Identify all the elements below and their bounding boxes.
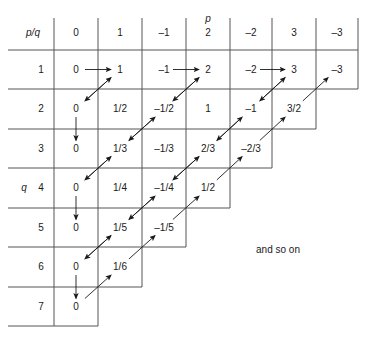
grid-cell-q2-c3: 1 xyxy=(205,104,211,114)
grid-and-arrows-canvas xyxy=(0,0,368,352)
grid-cell-q4-c3: 1/2 xyxy=(201,183,215,193)
column-header-4: –2 xyxy=(245,28,256,38)
grid-cell-q1-c4: –2 xyxy=(245,65,256,75)
corner-label: p/q xyxy=(26,28,40,38)
column-header-0: 0 xyxy=(73,28,79,38)
row-header-4: 4 xyxy=(38,183,44,193)
grid-cell-q3-c1: 1/3 xyxy=(113,144,127,154)
row-header-7: 7 xyxy=(38,302,44,312)
column-header-2: –1 xyxy=(158,28,169,38)
grid-cell-q5-c0: 0 xyxy=(73,223,79,233)
grid-lines xyxy=(8,18,358,326)
grid-cell-q2-c1: 1/2 xyxy=(113,104,127,114)
grid-cell-q2-c2: –1/2 xyxy=(154,104,173,114)
q-axis-label: q xyxy=(21,183,27,193)
grid-cell-q6-c1: 1/6 xyxy=(113,262,127,272)
row-header-6: 6 xyxy=(38,262,44,272)
row-header-1: 1 xyxy=(38,65,44,75)
row-header-5: 5 xyxy=(38,223,44,233)
grid-cell-q2-c5: 3/2 xyxy=(287,104,301,114)
grid-cell-q7-c0: 0 xyxy=(73,302,79,312)
grid-cell-q4-c1: 1/4 xyxy=(113,183,127,193)
grid-cell-q1-c0: 0 xyxy=(73,65,79,75)
grid-cell-q1-c5: 3 xyxy=(291,65,297,75)
column-header-5: 3 xyxy=(291,28,297,38)
grid-cell-q5-c2: –1/5 xyxy=(154,223,173,233)
grid-cell-q1-c1: 1 xyxy=(117,65,123,75)
grid-cell-q3-c3: 2/3 xyxy=(201,144,215,154)
grid-cell-q3-c2: –1/3 xyxy=(154,144,173,154)
grid-cell-q1-c3: 2 xyxy=(205,65,211,75)
grid-cell-q2-c0: 0 xyxy=(73,104,79,114)
and-so-on-note: and so on xyxy=(256,245,300,255)
grid-cell-q4-c2: –1/4 xyxy=(154,183,173,193)
column-header-1: 1 xyxy=(117,28,123,38)
p-axis-label: p xyxy=(205,14,211,24)
grid-cell-q1-c2: –1 xyxy=(158,65,169,75)
grid-cell-q2-c4: –1 xyxy=(245,104,256,114)
rational-enumeration-figure: 01–12–23–3pp/q1234567q01–12–23–301/2–1/2… xyxy=(0,0,368,352)
grid-cell-q6-c0: 0 xyxy=(73,262,79,272)
grid-cell-q4-c0: 0 xyxy=(73,183,79,193)
row-header-3: 3 xyxy=(38,144,44,154)
column-header-6: –3 xyxy=(331,28,342,38)
grid-cell-q3-c0: 0 xyxy=(73,144,79,154)
grid-cell-q1-c6: –3 xyxy=(331,65,342,75)
grid-cell-q5-c1: 1/5 xyxy=(113,223,127,233)
grid-cell-q3-c4: –2/3 xyxy=(241,144,260,154)
column-header-3: 2 xyxy=(205,28,211,38)
row-header-2: 2 xyxy=(38,104,44,114)
